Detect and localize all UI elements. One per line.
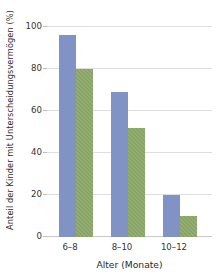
y-tick-label-20: 20 (8, 190, 42, 199)
bar-green-8-10 (128, 128, 145, 237)
x-tick-label-8-10: 8–10 (100, 243, 144, 252)
y-axis-title: Anteil der Kinder mit Unterscheidungsver… (0, 0, 20, 240)
bar-green-10-12 (180, 216, 197, 237)
x-tick-label-10-12: 10–12 (151, 243, 197, 252)
bar-blue-6-8 (59, 35, 76, 237)
y-tick-label-60: 60 (8, 106, 42, 115)
y-tick-label-80: 80 (8, 64, 42, 73)
bar-chart: Anteil der Kinder mit Unterscheidungsver… (0, 0, 217, 280)
bar-green-6-8 (76, 69, 93, 237)
y-tick-label-40: 40 (8, 148, 42, 157)
bar-blue-8-10 (111, 92, 128, 237)
x-axis-title: Alter (Monate) (47, 259, 212, 270)
y-tick-label-100: 100 (8, 22, 42, 31)
x-tick-label-6-8: 6–8 (48, 243, 92, 252)
y-tick-label-0: 0 (8, 232, 42, 241)
bar-blue-10-12 (163, 195, 180, 237)
gridline-100 (47, 26, 212, 27)
plot-area (47, 26, 212, 237)
